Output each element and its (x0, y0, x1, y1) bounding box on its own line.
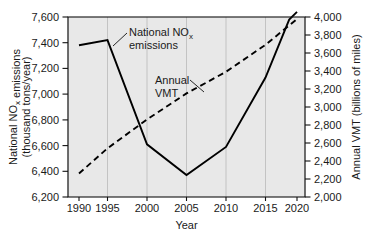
right-tick-label: 3,400 (314, 65, 342, 77)
nox-annotation-line2: emissions (129, 39, 178, 51)
x-tick-label: 2010 (214, 202, 238, 214)
x-axis-tick-labels: 1990 1995 2000 2005 2010 2015 2020 (67, 202, 309, 214)
left-tick-label: 7,400 (31, 37, 59, 49)
right-tick-label: 3,200 (314, 83, 342, 95)
left-tick-label: 6,800 (31, 114, 59, 126)
left-tick-label: 7,600 (31, 11, 59, 23)
left-axis-title: National NOx emissions (thousand tons/ye… (7, 49, 32, 165)
figure-container: 6,200 6,400 6,600 6,800 7,000 7,200 7,40… (0, 0, 378, 246)
left-axis-tick-labels: 6,200 6,400 6,600 6,800 7,000 7,200 7,40… (31, 11, 59, 203)
right-axis-title: Annual VMT (billions of miles) (350, 34, 362, 179)
right-tick-label: 2,600 (314, 137, 342, 149)
right-axis-ticks (305, 17, 311, 197)
right-tick-label: 4,000 (314, 11, 342, 23)
left-tick-label: 7,000 (31, 88, 59, 100)
left-tick-label: 7,200 (31, 62, 59, 74)
x-tick-label: 2000 (135, 202, 159, 214)
right-tick-label: 3,800 (314, 29, 342, 41)
right-tick-label: 3,000 (314, 101, 342, 113)
x-axis-title: Year (175, 219, 198, 231)
left-tick-label: 6,600 (31, 140, 59, 152)
right-tick-label: 2,400 (314, 155, 342, 167)
left-axis-title-part1: National NO (7, 105, 19, 165)
x-tick-label: 2015 (253, 202, 277, 214)
right-tick-label: 2,200 (314, 173, 342, 185)
vmt-annotation-line2: VMT (155, 87, 179, 99)
vmt-annotation-line1: Annual (155, 74, 189, 86)
x-tick-label: 1990 (67, 202, 91, 214)
x-tick-label: 2005 (174, 202, 198, 214)
left-tick-label: 6,400 (31, 165, 59, 177)
right-axis-tick-labels: 2,000 2,200 2,400 2,600 2,800 3,000 3,20… (314, 11, 342, 203)
dual-axis-line-chart: 6,200 6,400 6,600 6,800 7,000 7,200 7,40… (0, 0, 378, 246)
right-tick-label: 2,800 (314, 119, 342, 131)
right-tick-label: 3,600 (314, 47, 342, 59)
x-tick-label: 1995 (95, 202, 119, 214)
left-axis-title-line2: (thousand tons/year) (20, 57, 32, 158)
left-axis-ticks (63, 17, 69, 197)
x-axis-ticks (79, 197, 297, 201)
right-tick-label: 2,000 (314, 191, 342, 203)
x-tick-label: 2020 (285, 202, 309, 214)
left-tick-label: 6,200 (31, 191, 59, 203)
